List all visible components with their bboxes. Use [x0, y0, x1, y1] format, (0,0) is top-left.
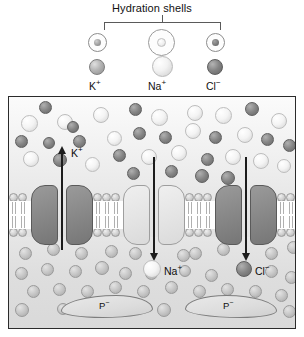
ion-particle [27, 285, 40, 298]
phospholipid-tail-row [93, 201, 123, 229]
arrow-head-down-icon [242, 253, 250, 261]
legend-label-sodium: Na+ [148, 78, 166, 92]
ion-particle [85, 157, 100, 172]
ion-particle [159, 131, 172, 144]
ion-particle [215, 107, 232, 124]
ion-particle [43, 137, 55, 149]
ion-particle [171, 145, 187, 161]
ion-particle [95, 261, 109, 275]
ion-particle [261, 133, 274, 146]
channel-wall-right [66, 185, 93, 245]
ion-particle [253, 153, 269, 169]
protein-label-left: P− [99, 299, 109, 311]
phospholipid-tail-icon [194, 201, 203, 229]
ion-particle [19, 247, 32, 260]
phospholipid-tail-row [9, 201, 31, 229]
ion-particle [237, 127, 253, 143]
diagram-charge-chloride: − [265, 263, 270, 272]
legend-label-sodium-text: Na [148, 80, 161, 92]
ion-particle [129, 103, 142, 116]
bracket-left-tick [104, 22, 105, 30]
phospholipid-tail-icon [286, 201, 295, 229]
phospholipid-head-icon [185, 228, 194, 237]
phospholipid-head-row [277, 228, 296, 237]
phospholipid-tail-icon [203, 201, 212, 229]
channel-wall-left [31, 185, 58, 245]
phospholipid-tail-icon [93, 201, 102, 229]
ion-sodium-transported [143, 260, 161, 278]
arrow-shaft [153, 157, 156, 254]
bilayer-patch [93, 193, 123, 237]
ion-particle [165, 281, 178, 294]
ion-particle [93, 107, 109, 123]
ion-particle [165, 165, 178, 178]
ion-particle [177, 249, 190, 262]
ion-particle [21, 115, 38, 132]
phospholipid-tail-icon [185, 201, 194, 229]
diagram-label-chloride-text: Cl [255, 265, 265, 277]
ion-particle [221, 171, 235, 185]
legend-label-potassium-text: K [89, 80, 96, 92]
phospholipid-tail-icon [9, 201, 18, 229]
ion-particle [15, 267, 28, 280]
protein-label-right: P− [223, 299, 233, 311]
protein-charge-left: − [105, 299, 109, 306]
phospholipid-head-icon [203, 228, 212, 237]
phospholipid-head-icon [286, 228, 295, 237]
channel-wall-left [123, 185, 150, 245]
phospholipid-head-icon [277, 228, 286, 237]
phospholipid-head-icon [102, 228, 111, 237]
diagram-charge-potassium: + [78, 145, 83, 154]
bilayer-patch [9, 193, 31, 237]
ion-particle [201, 153, 214, 166]
legend-charge-potassium: + [96, 78, 101, 87]
diagram-label-sodium-text: Na [164, 265, 177, 277]
ion-particle [283, 305, 296, 318]
legend-charge-sodium: + [161, 78, 166, 87]
phospholipid-head-icon [111, 228, 120, 237]
bare-ion-potassium-icon [89, 59, 105, 75]
ion-particle [107, 131, 122, 146]
phospholipid-head-icon [18, 228, 27, 237]
ion-particle [245, 102, 259, 116]
potassium-ion-core-icon [94, 39, 101, 46]
ion-particle [53, 283, 66, 296]
sodium-ion-core-icon [157, 38, 166, 47]
bilayer-patch [277, 193, 296, 237]
ion-particle [133, 127, 146, 140]
arrow-shaft [61, 153, 64, 250]
phospholipid-head-icon [194, 228, 203, 237]
phospholipid-head-row [185, 228, 215, 237]
ion-particle [127, 167, 140, 180]
phospholipid-tail-icon [18, 201, 27, 229]
ion-particle [187, 105, 203, 121]
diagram-label-potassium: K+ [71, 145, 83, 159]
membrane-diagram: K+ Na+ Cl− P− P− [8, 96, 296, 329]
bracket-right-tick [220, 22, 221, 30]
ion-particle [15, 135, 28, 148]
legend-label-chloride-text: Cl [206, 80, 216, 92]
ion-particle [157, 303, 171, 317]
ion-particle [15, 303, 29, 317]
legend-label-chloride: Cl− [206, 78, 221, 92]
ion-chloride-transported [236, 261, 252, 277]
bracket-stem [162, 15, 163, 23]
phospholipid-tail-icon [111, 201, 120, 229]
protein-charge-right: − [229, 299, 233, 306]
diagram-charge-sodium: + [177, 263, 182, 272]
arrow-shaft [245, 157, 248, 254]
ion-particle [23, 151, 39, 167]
chloride-ion-core-icon [212, 39, 219, 46]
bilayer-patch [185, 193, 215, 237]
ion-particle [105, 245, 118, 258]
ion-particle [265, 247, 278, 260]
ion-particle [225, 149, 241, 165]
phospholipid-tail-icon [277, 201, 286, 229]
ion-particle [185, 123, 201, 139]
ion-particle [205, 269, 218, 282]
ion-particle [113, 149, 126, 162]
diagram-label-chloride: Cl− [255, 263, 270, 277]
bare-ion-chloride-icon [207, 59, 223, 75]
phospholipid-head-icon [93, 228, 102, 237]
ion-particle [69, 265, 82, 278]
